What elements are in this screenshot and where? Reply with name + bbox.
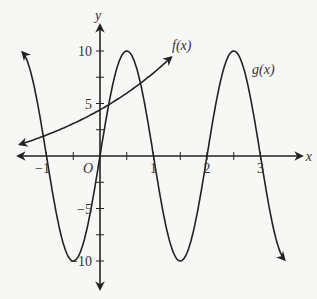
- y-axis-label: y: [93, 8, 102, 23]
- x-tick-label: 1: [150, 161, 157, 176]
- labels: −1123105−5−10xyOf(x)g(x): [35, 8, 313, 269]
- f-label: f(x): [172, 38, 192, 54]
- y-tick-label: 5: [85, 97, 92, 112]
- g-label: g(x): [252, 62, 275, 78]
- x-tick-label: 2: [204, 161, 211, 176]
- y-tick-label: 10: [78, 44, 92, 59]
- origin-label: O: [83, 161, 93, 176]
- y-tick-label: −10: [70, 254, 92, 269]
- x-tick-label: 3: [257, 161, 264, 176]
- x-axis-label: x: [305, 149, 313, 164]
- x-tick-label: −1: [35, 161, 50, 176]
- y-tick-label: −5: [77, 202, 92, 217]
- graph: −1123105−5−10xyOf(x)g(x): [0, 0, 317, 299]
